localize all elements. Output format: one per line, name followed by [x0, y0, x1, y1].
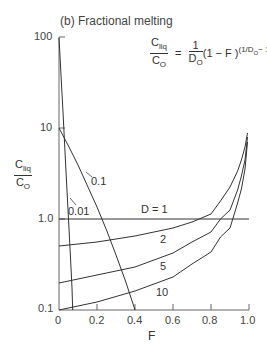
- curve-d10: [59, 142, 248, 310]
- curve-d5: [59, 137, 248, 283]
- curve-d2: [59, 133, 248, 246]
- plot-area: [0, 0, 267, 352]
- curve-d001: [59, 38, 73, 310]
- curves: [59, 38, 249, 310]
